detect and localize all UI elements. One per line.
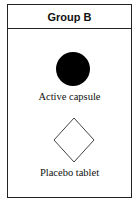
- group-b-panel: Group B Active capsule Placebo tablet: [7, 4, 132, 198]
- panel-title: Group B: [8, 5, 131, 29]
- active-capsule-label: Active capsule: [8, 91, 131, 102]
- placebo-tablet-label: Placebo tablet: [8, 167, 131, 178]
- filled-circle-icon: [54, 50, 92, 88]
- outline-diamond-icon: [51, 116, 97, 164]
